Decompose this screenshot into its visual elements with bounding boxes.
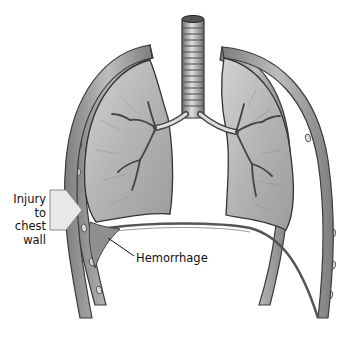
injury-label-line2: to	[2, 207, 46, 221]
trachea	[182, 16, 204, 119]
hemorrhage-leader-line	[108, 238, 134, 256]
lungs-diagram	[0, 0, 356, 338]
hemothorax-illustration: Injury to chest wall Hemorrhage	[0, 0, 356, 338]
hemorrhage-region	[89, 222, 120, 268]
injury-label-line1: Injury	[2, 193, 46, 207]
injury-label: Injury to chest wall	[2, 193, 46, 247]
injury-label-line3: chest	[2, 220, 46, 234]
hemorrhage-label: Hemorrhage	[136, 252, 208, 266]
injury-label-line4: wall	[2, 234, 46, 248]
diaphragm	[108, 224, 318, 319]
